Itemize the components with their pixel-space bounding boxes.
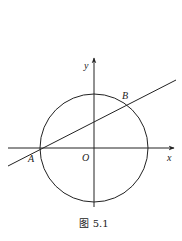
origin-label: O: [82, 152, 89, 163]
y-axis-label: y: [83, 60, 89, 71]
coordinate-diagram: y x O A B 图 5.1: [0, 0, 182, 241]
point-a-label: A: [27, 153, 35, 164]
point-b-label: B: [122, 90, 128, 101]
x-axis-label: x: [166, 152, 172, 163]
figure-caption: 图 5.1: [79, 218, 108, 229]
